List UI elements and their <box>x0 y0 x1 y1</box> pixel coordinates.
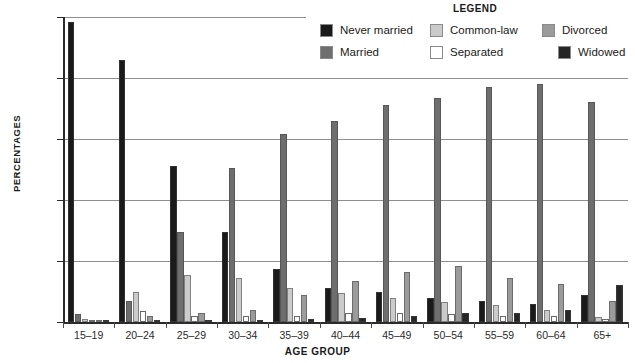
x-tick-mark <box>474 322 475 328</box>
x-tick-mark <box>371 322 372 328</box>
x-tick-mark <box>525 322 526 328</box>
bar-groups <box>63 17 628 322</box>
x-tick-mark <box>628 322 629 328</box>
bar <box>427 298 433 322</box>
bar <box>441 302 447 322</box>
bar <box>250 310 256 322</box>
bar <box>198 313 204 322</box>
bar <box>383 105 389 322</box>
bar <box>229 168 235 322</box>
bar <box>301 295 307 322</box>
bar <box>507 278 513 322</box>
bar-group <box>325 17 367 322</box>
bar <box>126 301 132 322</box>
x-tick-mark <box>63 322 64 328</box>
bar <box>544 310 550 322</box>
x-tick-mark <box>114 322 115 328</box>
x-tick-label: 50–54 <box>434 329 463 341</box>
bar <box>68 22 74 322</box>
bar-group <box>427 17 469 322</box>
bar <box>558 284 564 322</box>
bar <box>338 293 344 322</box>
bar <box>236 278 242 322</box>
x-tick-mark <box>577 322 578 328</box>
bar <box>75 314 81 322</box>
y-axis-title: PERCENTAGES <box>11 94 22 214</box>
x-tick-label: 40–44 <box>331 329 360 341</box>
bar <box>609 301 615 322</box>
bar <box>448 314 454 322</box>
bar <box>455 266 461 322</box>
x-tick-label: 35–39 <box>280 329 309 341</box>
bar <box>345 313 351 322</box>
bar-group <box>170 17 212 322</box>
bar <box>493 305 499 322</box>
bar <box>376 292 382 323</box>
bar <box>184 275 190 322</box>
bar <box>514 313 520 322</box>
bar <box>140 311 146 322</box>
x-tick-mark <box>268 322 269 328</box>
bar <box>397 313 403 322</box>
legend-title: LEGEND <box>318 3 632 14</box>
x-axis-labels: 15–1920–2425–2930–3435–3940–4445–4950–54… <box>63 329 628 349</box>
bar <box>331 121 337 322</box>
bar <box>390 298 396 322</box>
bar <box>404 272 410 322</box>
bar <box>537 84 543 322</box>
bar-group <box>119 17 161 322</box>
x-tick-mark <box>217 322 218 328</box>
bar <box>177 232 183 322</box>
bar <box>486 87 492 322</box>
x-tick-label: 20–24 <box>125 329 154 341</box>
bar <box>119 60 125 322</box>
x-tick-mark <box>166 322 167 328</box>
bar <box>133 292 139 323</box>
bar <box>434 98 440 322</box>
bar <box>588 102 594 322</box>
x-tick-label: 15–19 <box>74 329 103 341</box>
bar <box>222 232 228 322</box>
bar-group <box>530 17 572 322</box>
x-tick-mark <box>320 322 321 328</box>
bar <box>479 301 485 322</box>
bar-group <box>581 17 623 322</box>
bar <box>280 134 286 322</box>
bar <box>287 288 293 322</box>
plot-area: 0%20%40%60%80%100% 15–1920–2425–2930–343… <box>63 17 628 322</box>
bar-group <box>273 17 315 322</box>
x-tick-mark <box>423 322 424 328</box>
x-tick-label: 45–49 <box>382 329 411 341</box>
bar <box>325 288 331 322</box>
bar <box>352 281 358 322</box>
bar-group <box>68 17 110 322</box>
bar <box>581 295 587 322</box>
x-tick-label: 60–64 <box>536 329 565 341</box>
x-tick-label: 25–29 <box>177 329 206 341</box>
bar-group <box>222 17 264 322</box>
x-tick-label: 30–34 <box>228 329 257 341</box>
bar <box>616 285 622 322</box>
x-tick-label: 65+ <box>593 329 611 341</box>
bar-chart: LEGEND Never married Common-law Divorced… <box>0 0 635 363</box>
bar <box>530 304 536 322</box>
bar-group <box>376 17 418 322</box>
bar <box>273 269 279 322</box>
bar <box>565 310 571 322</box>
x-tick-label: 55–59 <box>485 329 514 341</box>
bar <box>462 313 468 322</box>
bar <box>170 166 176 322</box>
bar-group <box>479 17 521 322</box>
